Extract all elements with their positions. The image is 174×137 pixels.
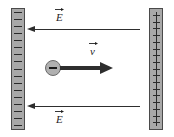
plus-sign: [153, 19, 160, 26]
plus-sign: [153, 25, 160, 32]
electric-field-label-bottom: E: [56, 114, 63, 125]
minus-sign: [14, 97, 22, 98]
minus-sign: [14, 69, 22, 70]
plus-sign: [153, 86, 160, 93]
minus-sign: [14, 104, 22, 105]
arrow-left-icon: [27, 26, 35, 32]
velocity-vector-shaft: [60, 66, 101, 70]
negative-point-charge: [45, 60, 61, 76]
minus-sign: [14, 26, 22, 27]
velocity-symbol: v: [90, 45, 95, 57]
velocity-label: v: [90, 46, 95, 57]
plus-sign: [153, 32, 160, 39]
plus-sign: [153, 59, 160, 66]
minus-sign: [14, 90, 22, 91]
plus-sign: [153, 52, 160, 59]
vector-arrow-icon: [89, 41, 98, 45]
minus-sign: [14, 61, 22, 62]
minus-sign: [14, 125, 22, 126]
minus-sign: [14, 118, 22, 119]
minus-sign: [14, 83, 22, 84]
positive-plate: [149, 8, 163, 130]
physics-diagram-capacitor: E E v: [0, 0, 174, 137]
plus-sign: [153, 66, 160, 73]
minus-sign: [14, 19, 22, 20]
minus-sign: [14, 40, 22, 41]
negative-plate: [11, 8, 25, 130]
plus-sign: [153, 92, 160, 99]
minus-sign: [14, 12, 22, 13]
plus-sign: [153, 79, 160, 86]
minus-sign: [14, 33, 22, 34]
electric-field-label-top: E: [56, 12, 63, 23]
minus-sign: [14, 76, 22, 77]
electric-field-vector-top-shaft: [33, 29, 140, 30]
vector-arrow-icon: [55, 109, 64, 113]
minus-sign: [14, 111, 22, 112]
minus-sign: [14, 47, 22, 48]
plus-sign: [153, 72, 160, 79]
plus-sign: [153, 39, 160, 46]
plus-sign: [153, 46, 160, 53]
arrow-right-icon: [100, 62, 113, 74]
arrow-left-icon: [27, 103, 35, 109]
plus-sign: [153, 113, 160, 120]
electric-field-symbol: E: [56, 113, 63, 125]
minus-sign: [14, 54, 22, 55]
electric-field-vector-bottom-shaft: [33, 106, 140, 107]
plus-sign: [153, 119, 160, 126]
vector-arrow-icon: [55, 7, 64, 11]
electric-field-symbol: E: [56, 11, 63, 23]
plus-sign: [153, 12, 160, 19]
minus-sign: [49, 67, 57, 69]
plus-sign: [153, 99, 160, 106]
plus-sign: [153, 106, 160, 113]
